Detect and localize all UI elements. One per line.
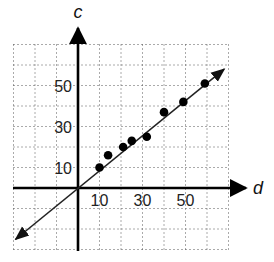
data-point — [201, 79, 210, 88]
x-axis-label: d — [253, 178, 264, 198]
data-point — [119, 143, 128, 152]
data-point — [143, 132, 152, 141]
x-tick-label: 30 — [134, 192, 152, 209]
trend-line — [16, 69, 225, 239]
line-of-fit — [16, 69, 225, 239]
data-point — [127, 137, 136, 146]
y-axis-label: c — [74, 2, 83, 22]
data-points — [95, 79, 209, 172]
data-point — [95, 163, 104, 172]
x-tick-label: 10 — [91, 192, 109, 209]
x-tick-label: 50 — [177, 192, 195, 209]
scatter-chart: 103050103050 c d — [0, 0, 274, 262]
y-tick-label: 30 — [54, 119, 72, 136]
data-point — [160, 108, 169, 117]
y-tick-label: 10 — [54, 160, 72, 177]
y-tick-label: 50 — [54, 78, 72, 95]
data-point — [104, 151, 113, 160]
data-point — [179, 98, 188, 107]
